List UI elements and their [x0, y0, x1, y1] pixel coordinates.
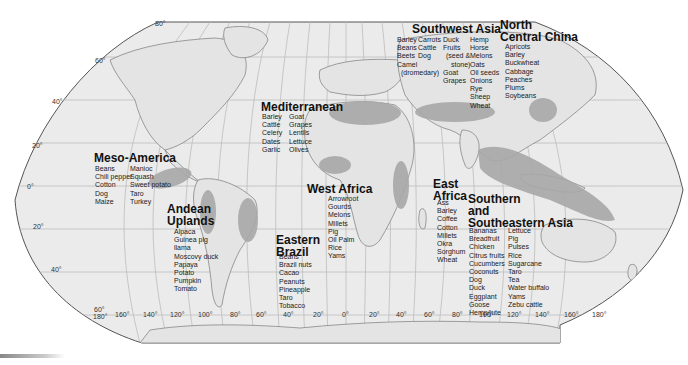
item: Horse — [470, 44, 499, 52]
item: (dromedary) — [397, 69, 439, 77]
region-items-mediterranean-col2: Goat Grapes Lentils Lettuce Olives — [289, 113, 312, 154]
item: Guinea pig — [174, 236, 218, 244]
item: Arrowroot — [328, 195, 358, 203]
item: Tobacco — [279, 302, 312, 310]
lon-label-100w: 100° — [198, 311, 212, 318]
item: Cacao — [279, 269, 312, 277]
region-items-north-central-china: Apricots Barley Buckwheat Cabbage Peache… — [505, 43, 539, 100]
item: Sheep — [470, 93, 499, 101]
item: Oil seeds — [470, 69, 499, 77]
lon-label-60e: 60° — [424, 311, 435, 318]
item: Zebu cattle — [508, 301, 549, 309]
item: Barley — [262, 113, 282, 121]
region-items-west-africa: Arrowroot Gourds Melons Millets Pig Oil … — [328, 195, 358, 261]
item: Garlic — [262, 146, 282, 154]
item: Chicken — [469, 243, 505, 251]
item: Dog — [469, 276, 505, 284]
item: Onions — [470, 77, 499, 85]
lat-label-80n: 80° — [155, 20, 166, 27]
item: Taro — [279, 294, 312, 302]
item: Taro — [508, 268, 549, 276]
lat-label-40s: 40° — [51, 266, 62, 273]
title-line: Uplands — [167, 215, 214, 227]
region-title-meso-america: Meso-America — [94, 152, 176, 164]
item: Cotton — [437, 224, 465, 232]
hearth-north-china — [529, 98, 557, 122]
item: Oats — [470, 61, 499, 69]
region-items-southern-asia-col2: Lettuce Pig Pulses Rice Sugarcane Taro T… — [508, 227, 549, 309]
region-items-meso-america-col2: Manioc Squash Sweet potato Taro Turkey — [130, 165, 171, 206]
item: Breadfruit — [469, 235, 505, 243]
lon-label-140e: 140° — [535, 311, 549, 318]
item: Cabbage — [505, 68, 539, 76]
hearth-west-africa — [319, 156, 351, 174]
item: Millets — [328, 220, 358, 228]
item: Beans — [95, 165, 132, 173]
item: Okra — [437, 240, 465, 248]
lon-label-160e: 160° — [564, 311, 578, 318]
lat-label-20s: 20° — [33, 223, 44, 230]
region-items-mediterranean-col1: Barley Cattle Celery Dates Garlic — [262, 113, 282, 154]
item: Turkey — [130, 198, 171, 206]
item: Rice — [328, 244, 358, 252]
item: Celery — [262, 129, 282, 137]
item: Taro — [130, 190, 171, 198]
scale-fade-bar — [0, 354, 65, 358]
item: Barley — [437, 207, 465, 215]
item: Rice — [508, 252, 549, 260]
item: Yams — [508, 293, 549, 301]
item: Yams — [328, 252, 358, 260]
region-title-west-africa: West Africa — [307, 183, 372, 195]
item: Cattle — [418, 44, 441, 52]
item: Lettuce — [508, 227, 549, 235]
item: Ass — [437, 199, 465, 207]
item: Bananas — [469, 227, 505, 235]
item: Grapes — [289, 121, 312, 129]
item: (seed & — [443, 52, 470, 60]
item: Camel — [397, 61, 439, 69]
item: Duck — [443, 36, 470, 44]
item: Gourds — [328, 203, 358, 211]
lon-label-180w: 180° — [93, 313, 107, 320]
item: Duck — [469, 284, 505, 292]
item: Goose — [469, 301, 505, 309]
item: Cotton — [95, 181, 132, 189]
region-items-andean-uplands: Alpaca Guinea pig llama Moscovy duck Pap… — [174, 228, 218, 294]
item: Wheat — [470, 102, 499, 110]
lon-label-60w: 60° — [256, 311, 267, 318]
item: Lentils — [289, 129, 312, 137]
item: Pig — [328, 228, 358, 236]
lat-label-60n: 60° — [95, 57, 106, 64]
item: Squash — [130, 173, 171, 181]
item: Peaches — [505, 76, 539, 84]
item: Cucumbers — [469, 260, 505, 268]
lon-label-140w: 140° — [143, 311, 157, 318]
item: Sugarcane — [508, 260, 549, 268]
item: Maize — [95, 198, 132, 206]
lat-label-40n: 40° — [52, 98, 63, 105]
item: Coffee — [437, 215, 465, 223]
lon-label-20w: 20° — [313, 311, 324, 318]
region-title-north-central-china: North Central China — [500, 19, 578, 43]
item: Buckwheat — [505, 59, 539, 67]
item: Dog — [418, 52, 441, 60]
region-title-southwest-asia: Southwest Asia — [412, 23, 501, 35]
lon-label-120w: 120° — [170, 311, 184, 318]
lon-label-20e: 20° — [369, 311, 380, 318]
lon-label-0: 0° — [342, 311, 349, 318]
title-line: Central China — [500, 31, 578, 43]
lon-label-180e: 180° — [592, 311, 606, 318]
region-title-mediterranean: Mediterranean — [261, 101, 343, 113]
lon-label-160w: 160° — [115, 311, 129, 318]
region-title-southern-southeastern-asia: Southern and Southeastern Asia — [468, 193, 573, 229]
item: Melons — [470, 52, 499, 60]
item: Water buffalo — [508, 284, 549, 292]
region-items-east-africa: Ass Barley Coffee Cotton Millets Okra So… — [437, 199, 465, 265]
item: Brazil nuts — [279, 261, 312, 269]
lon-label-40e: 40° — [396, 311, 407, 318]
lon-label-40w: 40° — [283, 311, 294, 318]
item: Coconuts — [469, 268, 505, 276]
item: Tomato — [174, 285, 218, 293]
item: Barley — [505, 51, 539, 59]
item: Beans — [279, 253, 312, 261]
